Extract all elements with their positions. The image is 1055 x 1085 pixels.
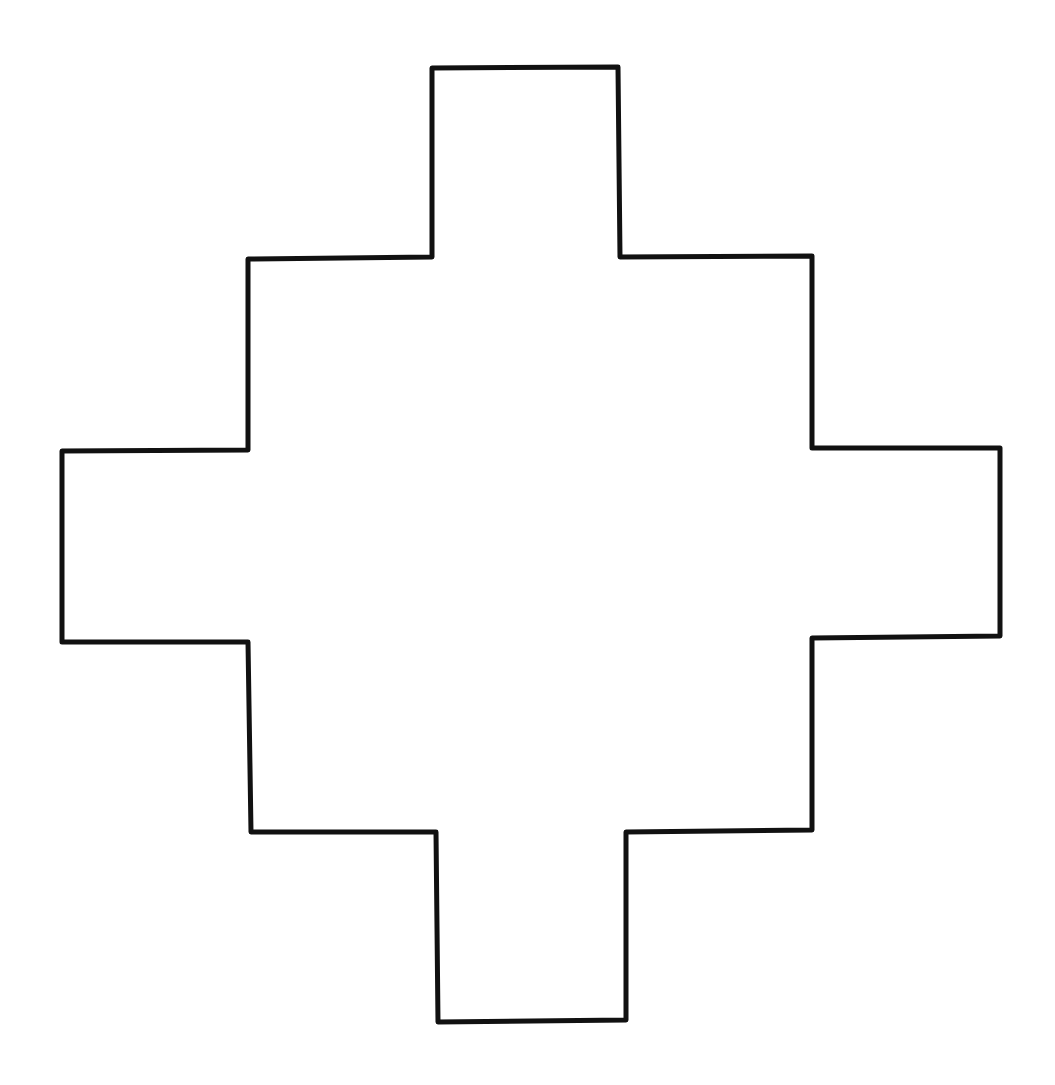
background xyxy=(0,0,1055,1085)
diagram-canvas xyxy=(0,0,1055,1085)
